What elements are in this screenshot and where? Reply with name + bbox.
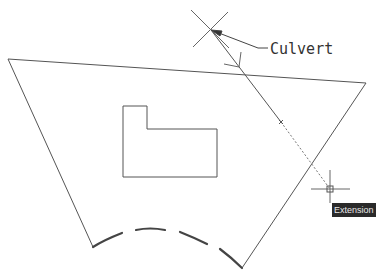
midpoint-marker-icon: [279, 120, 283, 124]
building-footprint[interactable]: [123, 106, 217, 177]
cad-drawing-canvas[interactable]: Culvert Extension: [0, 0, 378, 275]
x-marker-icon: [191, 10, 229, 48]
crosshair-icon: [311, 170, 350, 203]
drawing-viewport[interactable]: Culvert: [0, 0, 378, 275]
extension-tooltip: Extension: [332, 203, 376, 217]
extension-line: [281, 122, 330, 189]
bottom-arc-dashed[interactable]: [93, 229, 242, 269]
site-boundary[interactable]: [8, 59, 366, 268]
tick-marker-icon: [224, 52, 241, 67]
culvert-label[interactable]: Culvert: [270, 40, 333, 58]
